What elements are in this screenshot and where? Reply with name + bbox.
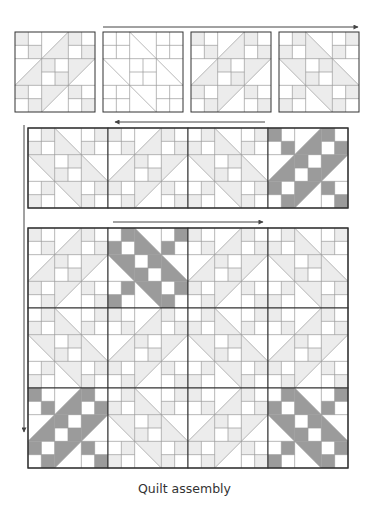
shaded-square <box>175 375 188 388</box>
shaded-square <box>228 268 241 281</box>
shaded-square <box>319 59 332 72</box>
shaded-square <box>292 32 305 45</box>
shaded-square <box>321 401 334 414</box>
shaded-square <box>41 181 54 194</box>
shaded-square <box>42 59 55 72</box>
quilt-block-r2-c2 <box>108 308 188 388</box>
shaded-square <box>135 268 148 281</box>
shaded-square <box>108 308 121 321</box>
shaded-square <box>281 228 294 241</box>
shaded-square <box>55 348 68 361</box>
shaded-square <box>68 85 81 98</box>
shaded-square <box>81 388 94 401</box>
shaded-square <box>135 155 148 168</box>
shaded-square <box>255 241 268 254</box>
shaded-square <box>103 45 116 58</box>
shaded-square <box>28 45 41 58</box>
shaded-square <box>130 72 143 85</box>
shaded-square <box>82 45 95 58</box>
shaded-square <box>161 295 174 308</box>
row2-block-4 <box>268 128 348 208</box>
quilt-block-r3-c1 <box>28 388 108 468</box>
shaded-square <box>201 128 214 141</box>
shaded-square <box>121 375 134 388</box>
shaded-square <box>201 401 214 414</box>
shaded-square <box>215 415 228 428</box>
shaded-square <box>308 168 321 181</box>
shaded-square <box>215 255 228 268</box>
shaded-square <box>81 281 94 294</box>
assembled-quilt-top <box>28 228 348 468</box>
shaded-square <box>346 32 359 45</box>
shaded-square <box>201 295 214 308</box>
shaded-square <box>281 141 294 154</box>
shaded-square <box>95 308 108 321</box>
shaded-square <box>241 441 254 454</box>
shaded-square <box>201 361 214 374</box>
shaded-square <box>121 195 134 208</box>
quilt-block-r1-c1 <box>28 228 108 308</box>
shaded-square <box>268 401 281 414</box>
shaded-square <box>308 348 321 361</box>
shaded-square <box>188 375 201 388</box>
shaded-square <box>201 181 214 194</box>
shaded-square <box>241 195 254 208</box>
shaded-square <box>68 32 81 45</box>
shaded-square <box>81 228 94 241</box>
shaded-square <box>241 321 254 334</box>
shaded-square <box>295 268 308 281</box>
shaded-square <box>15 85 28 98</box>
shaded-square <box>215 168 228 181</box>
shaded-square <box>135 335 148 348</box>
shaded-square <box>161 181 174 194</box>
shaded-square <box>95 455 108 468</box>
shaded-square <box>281 321 294 334</box>
shaded-square <box>268 455 281 468</box>
shaded-square <box>41 401 54 414</box>
shaded-square <box>255 295 268 308</box>
shaded-square <box>241 228 254 241</box>
shaded-square <box>241 281 254 294</box>
quilt-block-r1-c2 <box>108 228 188 308</box>
shaded-square <box>204 99 217 112</box>
shaded-square <box>95 128 108 141</box>
quilt-block-r3-c2 <box>108 388 188 468</box>
shaded-square <box>103 99 116 112</box>
shaded-square <box>321 295 334 308</box>
shaded-square <box>255 455 268 468</box>
shaded-square <box>204 45 217 58</box>
shaded-square <box>281 281 294 294</box>
shaded-square <box>281 388 294 401</box>
shaded-square <box>292 85 305 98</box>
shaded-square <box>28 388 41 401</box>
quilt-block-r3-c3 <box>188 388 268 468</box>
shaded-square <box>55 168 68 181</box>
shaded-square <box>321 128 334 141</box>
shaded-square <box>28 375 41 388</box>
shaded-square <box>68 335 81 348</box>
shaded-square <box>161 128 174 141</box>
shaded-square <box>175 321 188 334</box>
shaded-square <box>255 401 268 414</box>
shaded-square <box>15 32 28 45</box>
shaded-square <box>188 228 201 241</box>
shaded-square <box>121 228 134 241</box>
shaded-square <box>175 441 188 454</box>
shaded-square <box>332 99 345 112</box>
shaded-square <box>241 141 254 154</box>
row1-block-3 <box>191 32 271 112</box>
shaded-square <box>41 455 54 468</box>
shaded-square <box>191 32 204 45</box>
shaded-square <box>95 401 108 414</box>
shaded-square <box>148 168 161 181</box>
shaded-square <box>175 195 188 208</box>
shaded-square <box>81 195 94 208</box>
shaded-square <box>156 99 169 112</box>
shaded-square <box>121 281 134 294</box>
shaded-square <box>255 181 268 194</box>
row2-block-2 <box>108 128 188 208</box>
shaded-square <box>161 308 174 321</box>
shaded-square <box>41 361 54 374</box>
quilt-block-r1-c4 <box>268 228 348 308</box>
shaded-square <box>28 321 41 334</box>
